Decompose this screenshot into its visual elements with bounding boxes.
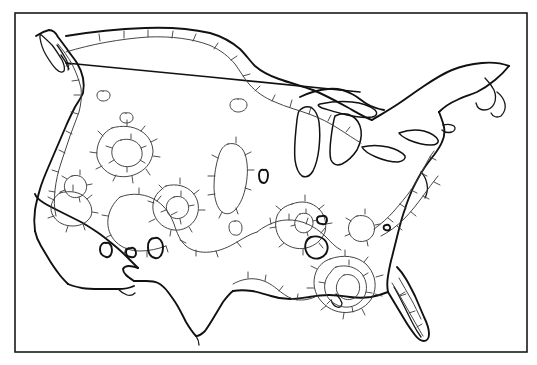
hachures-north-border xyxy=(99,30,350,132)
figure-frame xyxy=(15,13,527,352)
hachures-northern-plains xyxy=(148,178,205,236)
map-canvas xyxy=(0,0,537,365)
hachures-southeast-outer xyxy=(307,250,383,319)
base-map-outline xyxy=(34,28,509,345)
hachures-southeast-mid xyxy=(319,260,372,312)
contour-map-figure xyxy=(0,0,537,365)
hachures-florida xyxy=(400,292,422,327)
hachures-great-basin-outer xyxy=(90,120,160,183)
